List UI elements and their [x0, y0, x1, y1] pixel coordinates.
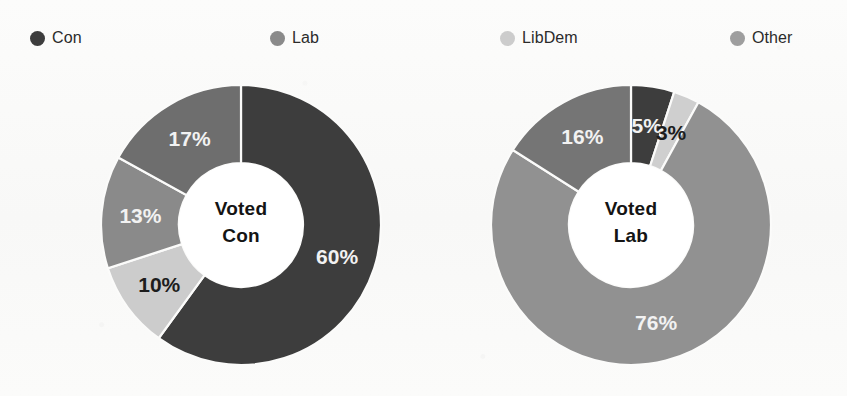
donut-center-label-line2: Con: [222, 225, 260, 246]
chart-canvas: ConLabLibDemOther 60%10%13%17%VotedCon 5…: [0, 0, 847, 396]
slice-value-label-lab: 13%: [119, 204, 161, 227]
slice-value-label-libdem: 10%: [138, 273, 180, 296]
donut-chart-voted-con: 60%10%13%17%VotedCon: [96, 80, 386, 370]
slice-value-label-other: 16%: [561, 125, 603, 148]
slice-value-label-lab: 76%: [635, 311, 677, 334]
donut-center-label-line2: Lab: [614, 225, 648, 246]
donut-chart-group: 60%10%13%17%VotedCon 5%3%76%16%VotedLab: [0, 0, 847, 396]
donut-svg: 5%3%76%16%VotedLab: [486, 80, 776, 370]
donut-center-label-line1: Voted: [215, 198, 267, 219]
slice-value-label-libdem: 3%: [656, 121, 687, 144]
donut-center-label-line1: Voted: [605, 198, 657, 219]
donut-svg: 60%10%13%17%VotedCon: [96, 80, 386, 370]
slice-value-label-con: 60%: [316, 245, 358, 268]
donut-chart-voted-lab: 5%3%76%16%VotedLab: [486, 80, 776, 370]
slice-value-label-other: 17%: [169, 127, 211, 150]
